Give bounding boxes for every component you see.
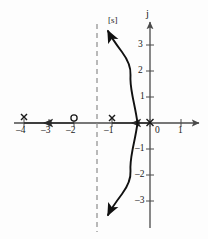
y-tick-label-2: 2 — [138, 66, 143, 76]
y-axis-label-j: j — [146, 9, 149, 20]
y-tick-label--3: –3 — [135, 196, 145, 206]
x-tick-label--3: –3 — [41, 126, 51, 136]
upper-locus-branch — [108, 31, 138, 123]
s-plane-label: [s] — [108, 16, 118, 25]
root-locus-chart: –4 –3 –2 –1 0 1 3 2 1 –1 –2 –3 j [s] — [0, 0, 208, 239]
y-tick-label-3: 3 — [138, 40, 143, 50]
y-tick-label--2: –2 — [135, 170, 145, 180]
y-tick-label--1: –1 — [135, 144, 145, 154]
lower-locus-branch — [108, 123, 138, 215]
x-tick-label-1: 1 — [178, 126, 183, 136]
x-tick-label--1: –1 — [104, 126, 114, 136]
x-tick-label-0: 0 — [155, 126, 160, 136]
x-tick-label--2: –2 — [66, 126, 76, 136]
plot-canvas — [0, 0, 208, 239]
zero-marker-minus-2 — [71, 115, 77, 121]
y-tick-label-1: 1 — [140, 92, 145, 102]
x-tick-label--4: –4 — [16, 126, 26, 136]
